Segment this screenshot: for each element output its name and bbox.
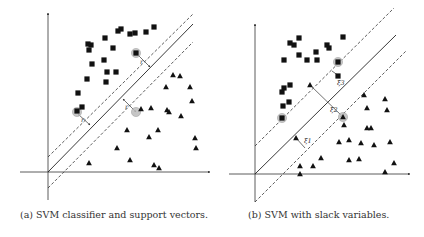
square-point: [101, 57, 106, 62]
triangle-point: [318, 155, 324, 160]
decision-boundary: [255, 35, 396, 174]
margin-lower-dashed-line: [255, 51, 406, 202]
triangle-point: [358, 140, 364, 145]
triangle-point: [391, 160, 397, 165]
axes-b: [229, 24, 410, 202]
square-point: [110, 45, 115, 50]
triangle-point: [127, 157, 133, 162]
square-point: [291, 42, 296, 47]
svm-figure: rrr ξ1ξ2ξ3: [0, 0, 424, 237]
triangle-point: [151, 162, 157, 167]
triangle-point: [307, 82, 313, 87]
triangle-point: [382, 169, 388, 174]
square-point: [74, 108, 79, 113]
square-point: [340, 34, 345, 39]
triangle-point: [177, 73, 183, 78]
data-points-b: [279, 34, 397, 176]
square-point: [287, 82, 292, 87]
square-point: [103, 79, 108, 84]
triangle-point: [384, 107, 390, 112]
square-point: [118, 26, 123, 31]
square-point: [104, 69, 109, 74]
triangle-point: [193, 145, 199, 150]
margin-label: r: [140, 58, 144, 66]
triangle-point: [346, 157, 352, 162]
triangle-point: [364, 105, 370, 110]
slack-line: [310, 85, 343, 117]
square-point: [286, 99, 291, 104]
slack-label: ξ2: [330, 106, 338, 114]
triangle-point: [336, 139, 342, 144]
square-point: [89, 61, 94, 66]
margin-lower-dashed-line: [48, 42, 193, 188]
data-points-a: [74, 24, 198, 170]
slack-label: ξ1: [304, 137, 312, 145]
triangle-point: [148, 105, 154, 110]
square-point: [281, 57, 286, 62]
triangle-point: [368, 125, 374, 130]
square-point: [151, 24, 156, 29]
caption-a: (a) SVM classifier and support vectors.: [20, 209, 208, 220]
square-point: [335, 73, 340, 78]
square-point: [314, 57, 319, 62]
square-point: [79, 104, 84, 109]
triangle-point: [192, 135, 198, 140]
square-point: [296, 35, 301, 40]
square-point: [143, 29, 148, 34]
triangle-point: [356, 156, 362, 161]
square-point: [296, 52, 301, 57]
square-point: [279, 115, 284, 120]
triangle-point: [146, 134, 152, 139]
triangle-point: [189, 98, 195, 103]
square-point: [280, 103, 285, 108]
triangle-point: [178, 113, 184, 118]
triangle-point: [156, 165, 162, 170]
square-point: [326, 45, 331, 50]
square-point: [75, 90, 80, 95]
triangle-point: [163, 84, 169, 89]
square-point: [133, 50, 138, 55]
panel-a-svm-classifier: rrr: [20, 13, 210, 200]
triangle-point: [155, 127, 161, 132]
slack-label: ξ3: [337, 79, 345, 87]
square-point: [113, 69, 118, 74]
square-point: [132, 30, 137, 35]
triangle-point: [187, 84, 193, 89]
square-point: [88, 42, 93, 47]
square-point: [304, 57, 309, 62]
margin-upper-dashed-line: [48, 14, 193, 157]
square-point: [84, 76, 89, 81]
decision-boundary: [48, 24, 193, 172]
triangle-point: [124, 127, 130, 132]
hyperplanes-a: [48, 14, 193, 188]
square-point: [279, 89, 284, 94]
triangle-point: [341, 122, 347, 127]
square-point: [313, 49, 318, 54]
triangle-point: [297, 163, 303, 168]
square-point: [335, 59, 340, 64]
triangle-point: [371, 142, 377, 147]
panel-b-slack-variables: ξ1ξ2ξ3: [229, 8, 410, 202]
square-point: [86, 47, 91, 52]
triangle-point: [170, 72, 176, 77]
triangle-point: [114, 145, 120, 150]
margin-upper-dashed-line: [255, 8, 394, 146]
square-point: [127, 31, 132, 36]
triangle-point: [346, 137, 352, 142]
square-point: [102, 35, 107, 40]
triangle-point: [310, 163, 316, 168]
caption-b: (b) SVM with slack variables.: [248, 209, 389, 220]
triangle-point: [387, 139, 393, 144]
support-vector-halo: [131, 107, 140, 116]
triangle-point: [86, 160, 92, 165]
triangle-point: [382, 96, 388, 101]
